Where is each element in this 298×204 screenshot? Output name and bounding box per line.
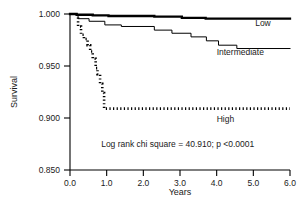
y-tick-label: 0.950 <box>39 61 61 71</box>
survival-chart: 0.8500.9000.9501.000 0.01.02.03.04.05.06… <box>0 0 298 204</box>
series-label-high: High <box>217 114 235 124</box>
km-plot-canvas: 0.8500.9000.9501.000 0.01.02.03.04.05.06… <box>0 0 298 204</box>
y-tick-label: 0.900 <box>39 113 61 123</box>
series-label-low: Low <box>255 18 271 28</box>
series-line-high <box>78 14 290 109</box>
x-tick-label: 1.0 <box>101 178 113 188</box>
x-tick-label: 4.0 <box>211 178 223 188</box>
x-tick-label: 5.0 <box>247 178 259 188</box>
log-rank-statistic: Log rank chi square = 40.910; p <0.0001 <box>101 139 254 149</box>
x-tick-label: 6.0 <box>284 178 296 188</box>
x-tick-label: 0.0 <box>64 178 76 188</box>
annotation-layer: Log rank chi square = 40.910; p <0.0001 <box>101 139 254 149</box>
series-label-intermediate: Intermediate <box>217 47 265 57</box>
x-axis-title: Years <box>169 187 192 197</box>
series-layer <box>70 14 290 109</box>
y-axis-title: Survival <box>9 76 19 108</box>
x-tick-label: 2.0 <box>137 178 149 188</box>
y-tick-label: 1.000 <box>39 9 61 19</box>
x-axis-ticks: 0.01.02.03.04.05.06.0 <box>64 170 296 188</box>
y-tick-label: 0.850 <box>39 165 61 175</box>
y-axis-ticks: 0.8500.9000.9501.000 <box>39 9 70 175</box>
